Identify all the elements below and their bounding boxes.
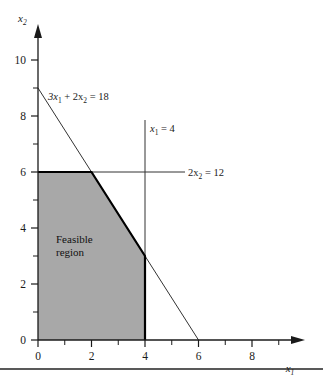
feasible-region-label-line1: Feasible	[56, 233, 93, 245]
x-tick-label-2: 2	[89, 350, 95, 362]
x-tick-label-0: 0	[35, 350, 41, 362]
x-tick-label-6: 6	[196, 350, 202, 362]
feasible-region-chart: 0 2 4 6 8 10 0 2 4 6 8 x2 x1 3x1 + 2x2 =…	[0, 0, 323, 379]
y-tick-label-6: 6	[20, 166, 26, 178]
y-tick-label-0: 0	[20, 334, 26, 346]
y-tick-label-2: 2	[20, 278, 26, 290]
x-tick-label-4: 4	[142, 350, 148, 362]
x-tick-label-8: 8	[249, 350, 255, 362]
y-tick-label-10: 10	[15, 54, 27, 66]
y-tick-label-8: 8	[20, 110, 26, 122]
y-tick-label-4: 4	[20, 222, 26, 234]
feasible-region-label-line2: region	[56, 246, 85, 258]
